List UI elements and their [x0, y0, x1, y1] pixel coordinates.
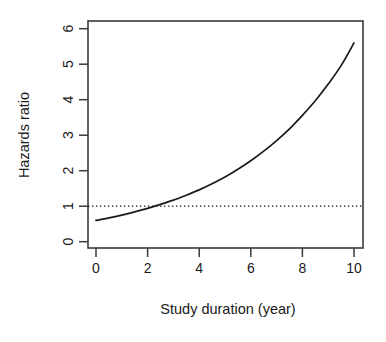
x-tick-label-8: 8: [299, 260, 307, 276]
y-axis-ticks: [79, 29, 88, 242]
hazards-ratio-line-chart: 6 5 4 3 2 1 0 0 2 4 6 8 10 Study durati: [0, 0, 386, 342]
y-tick-label-4: 4: [60, 96, 76, 104]
y-tick-label-2: 2: [60, 167, 76, 175]
y-tick-label-1: 1: [60, 202, 76, 210]
y-tick-label-6: 6: [60, 25, 76, 33]
x-axis-ticks: [96, 248, 354, 257]
y-tick-label-3: 3: [60, 131, 76, 139]
x-tick-label-6: 6: [247, 260, 255, 276]
x-tick-label-0: 0: [92, 260, 100, 276]
x-axis-title: Study duration (year): [160, 301, 295, 317]
x-tick-label-4: 4: [195, 260, 203, 276]
x-tick-label-2: 2: [144, 260, 152, 276]
y-axis-tick-labels: 6 5 4 3 2 1 0: [60, 25, 76, 246]
x-tick-label-10: 10: [346, 260, 362, 276]
y-axis-title: Hazards ratio: [16, 92, 32, 178]
chart-figure: 6 5 4 3 2 1 0 0 2 4 6 8 10 Study durati: [0, 0, 386, 342]
y-tick-label-5: 5: [60, 60, 76, 68]
y-tick-label-0: 0: [60, 238, 76, 246]
x-axis-tick-labels: 0 2 4 6 8 10: [92, 260, 362, 276]
